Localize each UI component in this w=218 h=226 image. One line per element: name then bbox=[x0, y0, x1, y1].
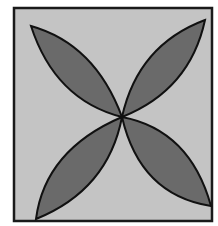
four-petal-diagram bbox=[0, 0, 218, 226]
